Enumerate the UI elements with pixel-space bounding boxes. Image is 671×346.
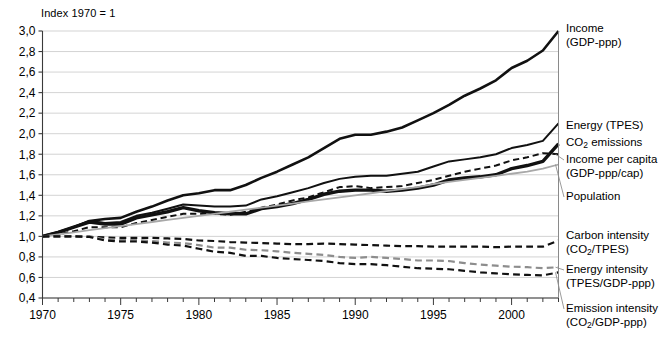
chart-container: Index 1970 = 1 3,02,82,62,42,22,01,81,61… [0, 0, 671, 346]
y-tick-label: 3,0 [19, 24, 36, 38]
series-label-line2: (CO2/GDP-ppp) [566, 316, 658, 333]
y-tick-label: 1,6 [19, 168, 36, 182]
leader-line-energy-intensity [556, 267, 565, 270]
series-label-line2: (TPES/GDP-ppp) [566, 277, 655, 291]
y-tick-label: 2,4 [19, 86, 36, 100]
y-tick-label: 0,6 [19, 271, 36, 285]
y-tick-label: 2,6 [19, 65, 36, 79]
series-label-line1: Carbon intensity [566, 229, 649, 243]
x-tick-label: 1970 [29, 308, 56, 322]
label-leader-lines [556, 154, 565, 309]
series-label-line1: CO2 emissions [566, 136, 642, 153]
series-label-carbon-intensity: Carbon intensity(CO2/TPES) [566, 229, 649, 259]
series-label-line1: Emission intensity [566, 302, 658, 316]
series-label-emission-intensity: Emission intensity(CO2/GDP-ppp) [566, 302, 658, 332]
x-axis-labels: 1970197519801985199019952000 [29, 308, 525, 322]
series-label-energy-intensity: Energy intensity(TPES/GDP-ppp) [566, 263, 655, 290]
y-tick-label: 1,2 [19, 209, 36, 223]
y-tick-label: 0,4 [19, 291, 36, 305]
x-tick-label: 1990 [342, 308, 369, 322]
series-label-line2: (CO2/TPES) [566, 243, 649, 260]
series-label-line2: (GDP-ppp) [566, 36, 622, 50]
y-tick-label: 1,8 [19, 148, 36, 162]
y-tick-label: 2,2 [19, 106, 36, 120]
x-tick-label: 1980 [186, 308, 213, 322]
series-line-emission-intensity-co2-gdp-ppp [43, 236, 559, 275]
x-tick-label: 2000 [498, 308, 525, 322]
y-axis-ticks [39, 31, 43, 298]
series-line-energy-tpes [43, 123, 559, 236]
x-axis-ticks [43, 298, 559, 305]
series-label-energy-tpes: Energy (TPES) [566, 119, 643, 133]
series-label-line1: Energy (TPES) [566, 119, 643, 133]
series-label-income-per-capita: Income per capita(GDP-ppp/cap) [566, 153, 657, 180]
y-tick-label: 0,8 [19, 250, 36, 264]
y-tick-label: 2,8 [19, 45, 36, 59]
series-label-co2-emissions: CO2 emissions [566, 136, 642, 153]
x-tick-label: 1985 [264, 308, 291, 322]
series-label-line2: (GDP-ppp/cap) [566, 167, 657, 181]
leader-line-emission-intensity [556, 272, 565, 309]
y-tick-label: 1,0 [19, 230, 36, 244]
x-tick-label: 1975 [107, 308, 134, 322]
series-label-line1: Income [566, 22, 622, 36]
leader-line-population [556, 165, 565, 198]
series-label-population: Population [566, 190, 620, 204]
series-label-line1: Income per capita [566, 153, 657, 167]
x-tick-label: 1995 [420, 308, 447, 322]
y-axis-labels: 3,02,82,62,42,22,01,81,61,41,21,00,80,60… [19, 24, 36, 305]
series-label-line1: Population [566, 190, 620, 204]
series-label-line1: Energy intensity [566, 263, 655, 277]
series-label-income: Income(GDP-ppp) [566, 22, 622, 49]
y-tick-label: 2,0 [19, 127, 36, 141]
leader-line-income-per-capita [556, 154, 565, 160]
series-lines [43, 31, 559, 275]
y-tick-label: 1,4 [19, 189, 36, 203]
grid-lines [43, 31, 559, 298]
